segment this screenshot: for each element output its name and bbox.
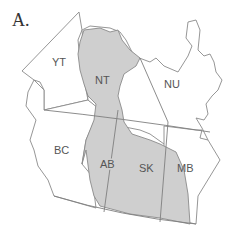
label-nu: NU xyxy=(164,78,180,90)
label-bc: BC xyxy=(54,144,69,156)
label-yt: YT xyxy=(52,56,66,68)
label-sk: SK xyxy=(139,162,154,174)
label-mb: MB xyxy=(177,162,194,174)
canada-western-map: YT NT NU BC AB SK MB xyxy=(0,0,240,232)
label-ab: AB xyxy=(100,158,115,170)
label-nt: NT xyxy=(95,74,110,86)
